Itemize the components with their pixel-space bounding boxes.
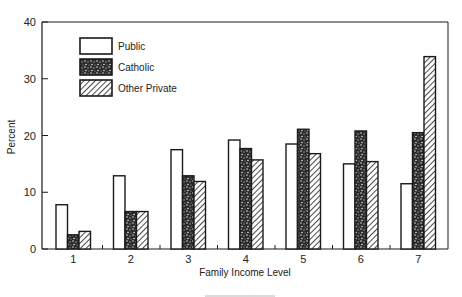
y-tick-label: 10: [24, 186, 36, 198]
bar-other-private-1: [79, 231, 91, 249]
bar-public-5: [286, 144, 298, 249]
legend-swatch-other-private: [80, 80, 112, 96]
legend-swatch-catholic: [80, 59, 112, 75]
legend-label: Public: [118, 41, 145, 52]
bar-catholic-4: [240, 149, 252, 249]
x-tick-label: 5: [300, 253, 306, 265]
y-tick-label: 30: [24, 73, 36, 85]
bar-other-private-4: [252, 160, 264, 249]
legend-label: Other Private: [118, 83, 177, 94]
bar-other-private-6: [367, 162, 379, 249]
legend: PublicCatholicOther Private: [80, 38, 177, 96]
y-tick-label: 20: [24, 130, 36, 142]
bar-public-3: [171, 150, 183, 249]
x-tick-label: 3: [185, 253, 191, 265]
bar-catholic-5: [298, 129, 310, 249]
bar-catholic-7: [413, 133, 425, 249]
x-tick-label: 4: [243, 253, 249, 265]
x-tick-label: 7: [415, 253, 421, 265]
bar-other-private-2: [137, 212, 149, 249]
x-axis-title: Family Income Level: [199, 267, 291, 278]
y-axis: 010203040: [24, 16, 48, 255]
bar-public-7: [401, 184, 413, 249]
legend-swatch-public: [80, 38, 112, 54]
bar-catholic-2: [125, 212, 137, 249]
legend-label: Catholic: [118, 62, 154, 73]
y-tick-label: 0: [30, 243, 36, 255]
x-tick-label: 2: [128, 253, 134, 265]
bars: [56, 57, 436, 249]
bar-other-private-3: [194, 181, 206, 249]
bar-public-6: [344, 164, 356, 249]
y-tick-label: 40: [24, 16, 36, 28]
bar-public-2: [114, 176, 126, 249]
bar-other-private-5: [309, 154, 321, 249]
bar-catholic-1: [68, 235, 80, 249]
bar-chart: 010203040 1234567 PublicCatholicOther Pr…: [0, 0, 462, 297]
bar-catholic-6: [355, 131, 367, 249]
y-axis-title: Percent: [6, 120, 17, 155]
bar-public-4: [229, 140, 241, 249]
x-tick-label: 1: [70, 253, 76, 265]
bar-catholic-3: [183, 176, 195, 249]
bar-other-private-7: [424, 57, 436, 249]
x-tick-label: 6: [358, 253, 364, 265]
bar-public-1: [56, 205, 68, 249]
